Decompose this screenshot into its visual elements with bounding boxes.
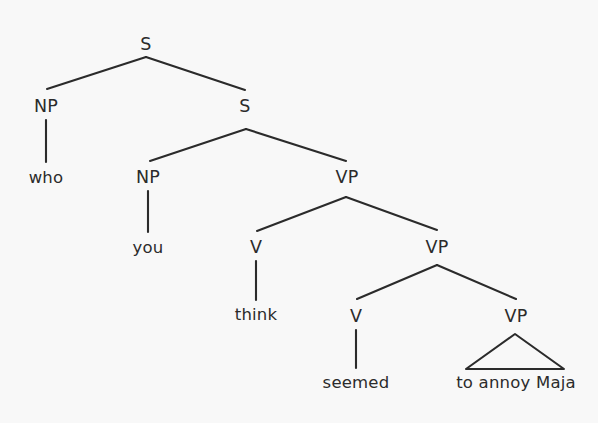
s-embedded-to-vp-upper bbox=[246, 129, 346, 161]
node-vp-upper: VP bbox=[336, 169, 359, 187]
syntax-tree-figure: S NP who S NP you VP V think VP V seemed… bbox=[0, 0, 598, 423]
word-think: think bbox=[235, 307, 278, 324]
word-you: you bbox=[133, 240, 164, 257]
vp-middle-to-v-seemed bbox=[357, 265, 437, 299]
s-root-to-s-embedded bbox=[146, 57, 245, 90]
vp-upper-to-v-think bbox=[257, 197, 346, 231]
phrase-to-annoy-maja: to annoy Maja bbox=[456, 375, 576, 392]
vp-triangle-shape bbox=[466, 334, 564, 369]
vp-middle-to-vp-triangle bbox=[437, 265, 516, 299]
node-vp-triangle: VP bbox=[505, 308, 528, 326]
node-v-think: V bbox=[250, 239, 262, 257]
vp-upper-to-vp-middle bbox=[346, 197, 437, 230]
tree-edge-group bbox=[46, 57, 516, 368]
node-v-seemed: V bbox=[350, 308, 362, 326]
node-s-embedded: S bbox=[239, 98, 250, 116]
s-embedded-to-np-you bbox=[150, 129, 246, 161]
node-np-you: NP bbox=[136, 169, 160, 187]
node-vp-middle: VP bbox=[426, 239, 449, 257]
node-np-who: NP bbox=[34, 98, 58, 116]
tree-triangle-group bbox=[466, 334, 564, 369]
tree-branches-svg bbox=[0, 0, 598, 423]
word-who: who bbox=[29, 170, 64, 187]
word-seemed: seemed bbox=[323, 375, 390, 392]
s-root-to-np-who bbox=[47, 57, 146, 89]
node-s-root: S bbox=[140, 36, 151, 54]
